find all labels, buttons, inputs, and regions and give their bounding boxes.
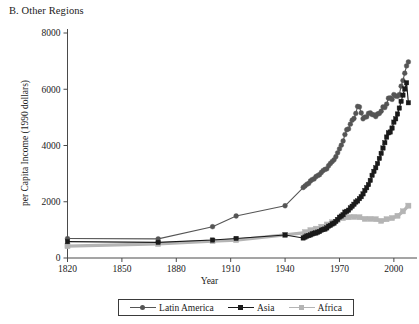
legend-label: Asia bbox=[257, 303, 274, 313]
axis-lines bbox=[68, 29, 418, 258]
legend-entry-asia[interactable]: Asia bbox=[228, 303, 274, 313]
svg-text:8000: 8000 bbox=[42, 28, 61, 38]
svg-text:2000: 2000 bbox=[42, 197, 61, 207]
svg-text:4000: 4000 bbox=[42, 141, 61, 151]
legend-marker-square-icon bbox=[289, 303, 315, 312]
svg-text:1940: 1940 bbox=[276, 264, 295, 274]
chart-figure: B. Other Regions per Capita Income (1990… bbox=[0, 0, 419, 324]
y-axis-ticks: 02000400060008000 bbox=[42, 28, 68, 263]
svg-text:1880: 1880 bbox=[167, 264, 186, 274]
svg-text:0: 0 bbox=[56, 253, 61, 263]
svg-text:1850: 1850 bbox=[112, 264, 131, 274]
x-axis-label: Year bbox=[0, 276, 419, 286]
svg-text:2000: 2000 bbox=[384, 264, 403, 274]
x-axis-ticks: 1820185018801910194019702000 bbox=[58, 258, 404, 274]
svg-text:1910: 1910 bbox=[221, 264, 240, 274]
legend-label: Africa bbox=[318, 303, 342, 313]
svg-text:1970: 1970 bbox=[330, 264, 349, 274]
chart-legend: Latin AmericaAsiaAfrica bbox=[118, 299, 354, 316]
legend-marker-square-icon bbox=[228, 303, 254, 312]
legend-entry-latin-america[interactable]: Latin America bbox=[130, 303, 214, 313]
svg-text:6000: 6000 bbox=[42, 85, 61, 95]
series-latin-america bbox=[65, 60, 411, 242]
legend-label: Latin America bbox=[159, 303, 214, 313]
legend-entry-africa[interactable]: Africa bbox=[289, 303, 342, 313]
svg-text:1820: 1820 bbox=[58, 264, 77, 274]
legend-marker-circle-icon bbox=[130, 303, 156, 312]
